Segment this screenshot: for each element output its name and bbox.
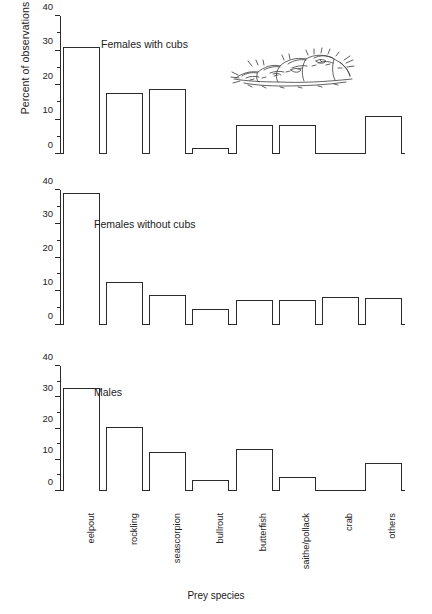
category-label: saithe/pollack [301,513,311,569]
bar-slot [362,366,405,491]
bar-eelpout [63,388,100,491]
panel-females-without-cubs: 010203040 [0,182,432,347]
seal-illustration [228,26,358,92]
bar-others [365,298,402,325]
y-tick-label: 30 [42,210,53,220]
bar-slot [146,366,189,491]
category-label: crab [344,513,354,531]
x-axis-category-labels: eelpoutrocklingseascorpionbullroutbutter… [60,513,405,585]
bar-slot [103,366,146,491]
y-tick-label: 0 [48,477,53,487]
y-tick-label: 10 [42,277,53,287]
bar-slot [60,16,103,154]
y-tick-label: 10 [42,105,53,115]
y-tick-label: 10 [42,446,53,456]
bar-slot [189,190,232,325]
panel-label-0: Females with cubs [101,38,188,50]
category-slot: bullrout [189,513,232,585]
y-tick-label: 0 [48,311,53,321]
bar-slot [146,16,189,154]
plot-area: 010203040 [60,190,405,325]
bar-bullrout [192,480,229,491]
bar-slot [276,190,319,325]
bar-slot [103,190,146,325]
bar-slot [189,366,232,491]
y-tick-label: 30 [42,383,53,393]
category-slot: crab [319,513,362,585]
x-axis-title: Prey species [0,590,432,601]
category-slot: saithe/pollack [276,513,319,585]
category-slot: rockling [103,513,146,585]
category-label: bullrout [215,513,225,544]
bar-seascorpion [149,89,186,154]
bar-slot [103,16,146,154]
bar-slot [233,366,276,491]
bar-eelpout [63,47,100,154]
bar-slot [362,16,405,154]
plot-area: 010203040 [60,366,405,491]
y-tick-label: 30 [42,36,53,46]
category-label: others [387,513,397,539]
bar-group [60,190,405,325]
bar-slot [319,190,362,325]
category-label: butterfish [258,513,268,551]
y-tick-label: 20 [42,243,53,253]
bar-group [60,366,405,491]
category-label: rockling [129,513,139,545]
bar-slot [276,366,319,491]
bar-saithe-pollack [279,125,316,154]
category-label: eelpout [86,513,96,544]
y-tick-label: 20 [42,71,53,81]
bar-others [365,463,402,491]
y-tick-label: 20 [42,414,53,424]
bar-bullrout [192,309,229,325]
category-slot: eelpout [60,513,103,585]
bar-butterfish [236,125,273,154]
panel-label-1: Females without cubs [94,218,196,230]
category-slot: butterfish [233,513,276,585]
figure-prey-species-chart: Percent of observations 010203040 Female… [0,0,432,614]
bar-butterfish [236,300,273,325]
bar-slot [189,16,232,154]
y-tick-label: 40 [42,176,53,186]
bar-slot [60,366,103,491]
bar-saithe-pollack [279,300,316,325]
bar-eelpout [63,193,100,325]
bar-slot [362,190,405,325]
bar-slot [233,190,276,325]
bar-rockling [106,282,143,325]
category-label: seascorpion [172,513,182,563]
panel-males: 010203040 [0,358,432,513]
bar-rockling [106,427,143,491]
category-slot: seascorpion [146,513,189,585]
panel-females-with-cubs: 010203040 [0,8,432,176]
y-tick-label: 40 [42,2,53,12]
bar-saithe-pollack [279,477,316,491]
bar-slot [146,190,189,325]
panel-label-2: Males [94,386,122,398]
bar-slot [60,190,103,325]
bar-seascorpion [149,295,186,325]
bar-slot [319,366,362,491]
bar-seascorpion [149,452,186,491]
y-tick-label: 40 [42,352,53,362]
bar-bullrout [192,148,229,154]
bar-butterfish [236,449,273,491]
bar-crab [322,297,359,325]
bar-others [365,116,402,154]
bar-rockling [106,93,143,154]
y-tick-label: 0 [48,140,53,150]
category-slot: others [362,513,405,585]
